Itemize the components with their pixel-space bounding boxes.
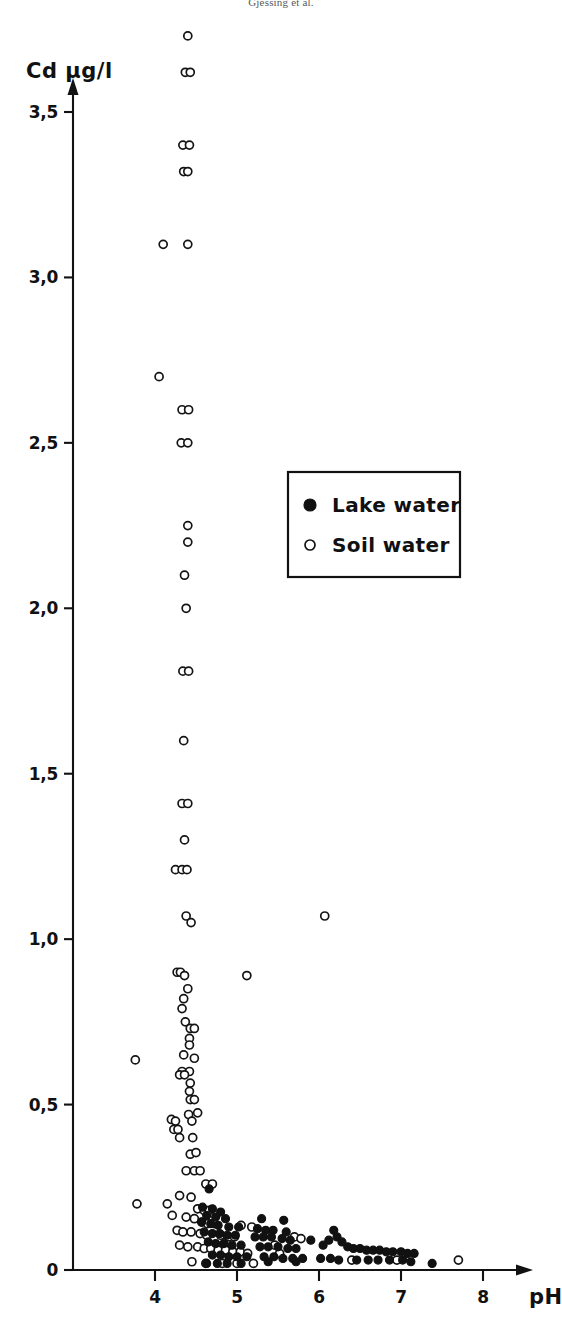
data-point: [286, 1236, 294, 1244]
data-point: [216, 1230, 224, 1238]
data-point: [198, 1218, 206, 1226]
data-point: [172, 1117, 180, 1125]
legend-label: Soil water: [332, 533, 450, 557]
x-axis-tick-label: 4: [149, 1287, 161, 1307]
data-point: [231, 1231, 239, 1239]
data-point: [212, 1240, 220, 1248]
data-point: [307, 1236, 315, 1244]
data-point: [251, 1233, 259, 1241]
data-point: [374, 1256, 382, 1264]
x-axis-tick-label: 5: [231, 1287, 243, 1307]
data-point: [259, 1233, 267, 1241]
data-point: [190, 1054, 198, 1062]
data-point: [180, 995, 188, 1003]
data-point: [187, 1193, 195, 1201]
data-point: [410, 1249, 418, 1257]
data-point: [184, 538, 192, 546]
data-point: [184, 985, 192, 993]
data-point: [185, 1087, 193, 1095]
y-axis-tick-label: 1,5: [29, 764, 58, 784]
data-point: [292, 1244, 300, 1252]
data-point: [249, 1259, 257, 1267]
data-point: [176, 1134, 184, 1142]
data-point: [174, 1125, 182, 1133]
data-point: [223, 1231, 231, 1239]
data-point: [274, 1243, 282, 1251]
data-point: [178, 1005, 186, 1013]
data-point: [217, 1251, 225, 1259]
data-point: [182, 1167, 190, 1175]
y-axis-tick-label: 0,5: [29, 1095, 58, 1115]
data-point: [187, 1228, 195, 1236]
data-point: [184, 168, 192, 176]
data-point: [185, 667, 193, 675]
x-axis-arrowhead: [516, 1265, 533, 1276]
data-point: [278, 1235, 286, 1243]
data-point: [163, 1200, 171, 1208]
y-axis-tick-label: 0: [46, 1260, 58, 1280]
legend-marker-lake-water: [304, 499, 316, 511]
data-point: [237, 1241, 245, 1249]
data-point: [185, 141, 193, 149]
data-point: [183, 866, 191, 874]
scatter-plot-figure: 00,51,01,52,02,53,03,545678Cd µg/lpHLake…: [0, 0, 562, 1327]
data-point: [184, 240, 192, 248]
data-point: [168, 1211, 176, 1219]
y-axis-tick-label: 1,0: [29, 929, 59, 949]
x-axis-tick-label: 7: [395, 1287, 407, 1307]
data-point: [184, 799, 192, 807]
legend-label: Lake water: [332, 493, 461, 517]
data-point: [155, 373, 163, 381]
data-point: [180, 737, 188, 745]
data-point: [200, 1228, 208, 1236]
data-point: [176, 1192, 184, 1200]
cd-vs-ph-scatter-svg: 00,51,01,52,02,53,03,545678Cd µg/lpHLake…: [0, 0, 562, 1327]
data-point: [188, 1258, 196, 1266]
data-point: [180, 1051, 188, 1059]
y-axis-tick-label: 3,5: [29, 102, 58, 122]
y-axis-title: Cd µg/l: [26, 59, 113, 83]
data-point: [335, 1256, 343, 1264]
data-point: [264, 1258, 272, 1266]
data-point: [284, 1244, 292, 1252]
data-point: [186, 68, 194, 76]
data-point: [256, 1243, 264, 1251]
data-point: [192, 1149, 200, 1157]
x-axis-tick-label: 6: [313, 1287, 325, 1307]
data-point: [279, 1254, 287, 1262]
data-point: [326, 1254, 334, 1262]
data-point: [196, 1167, 204, 1175]
legend-box: [288, 472, 460, 577]
data-point: [317, 1254, 325, 1262]
data-point: [386, 1256, 394, 1264]
data-point: [182, 604, 190, 612]
data-point: [199, 1203, 207, 1211]
data-point: [407, 1258, 415, 1266]
data-point: [184, 522, 192, 530]
data-point: [264, 1243, 272, 1251]
data-point: [321, 912, 329, 920]
data-point: [399, 1256, 407, 1264]
data-point: [258, 1215, 266, 1223]
data-point: [188, 1117, 196, 1125]
data-point: [189, 1134, 197, 1142]
data-point: [190, 1024, 198, 1032]
data-point: [159, 240, 167, 248]
data-point: [208, 1251, 216, 1259]
data-point: [203, 1259, 211, 1267]
data-point: [280, 1216, 288, 1224]
data-point: [186, 1079, 194, 1087]
data-point: [319, 1241, 327, 1249]
x-axis-title: pH: [529, 1285, 562, 1309]
data-point: [181, 571, 189, 579]
data-point: [181, 836, 189, 844]
data-point: [194, 1109, 202, 1117]
data-point: [131, 1056, 139, 1064]
y-axis-tick-label: 3,0: [29, 267, 59, 287]
data-point: [133, 1200, 141, 1208]
data-point: [205, 1185, 213, 1193]
data-point: [237, 1259, 245, 1267]
data-point: [207, 1220, 215, 1228]
data-point: [204, 1238, 212, 1246]
data-point: [184, 32, 192, 40]
